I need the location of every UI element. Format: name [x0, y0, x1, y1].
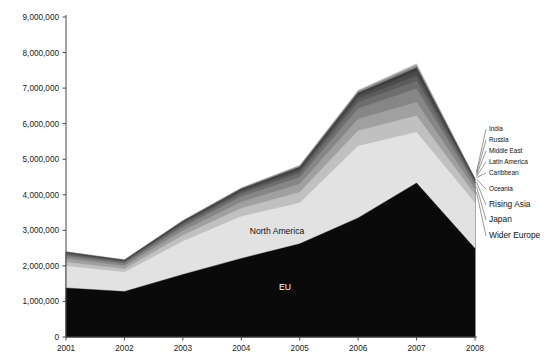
callout-label-rising-asia: Rising Asia — [489, 199, 531, 209]
y-tick-label: 1,000,000 — [23, 297, 60, 306]
y-tick-label: 5,000,000 — [23, 155, 60, 164]
x-tick-label: 2006 — [349, 344, 368, 353]
x-tick-labels: 20012002200320042005200620072008 — [57, 344, 485, 353]
callout-label-india: India — [489, 125, 503, 132]
callout-labels: IndiaRussiaMiddle EastLatin AmericaCarib… — [489, 125, 541, 240]
chart-canvas: 9,000,0008,000,0007,000,0006,000,0005,00… — [0, 0, 549, 364]
callout-label-wider-europe: Wider Europe — [489, 230, 541, 240]
x-tick-label: 2004 — [232, 344, 251, 353]
callout-label-oceania: Oceania — [489, 185, 513, 192]
x-tick-label: 2001 — [57, 344, 76, 353]
y-tick-label: 0 — [54, 333, 59, 342]
callout-leader-line — [477, 173, 487, 178]
y-tick-label: 7,000,000 — [23, 84, 60, 93]
x-tick-label: 2003 — [174, 344, 193, 353]
y-tick-label: 3,000,000 — [23, 226, 60, 235]
x-tick-label: 2005 — [291, 344, 310, 353]
callout-label-japan: Japan — [489, 214, 512, 224]
y-tick-label: 2,000,000 — [23, 262, 60, 271]
y-tick-labels: 9,000,0008,000,0007,000,0006,000,0005,00… — [23, 13, 60, 342]
callout-leader-line — [477, 179, 487, 189]
callout-leader-lines — [477, 129, 487, 236]
callout-label-latin-america: Latin America — [489, 158, 528, 165]
x-tick-label: 2002 — [115, 344, 134, 353]
x-tick-label: 2008 — [466, 344, 485, 353]
callout-label-middle-east: Middle East — [489, 147, 523, 154]
callout-label-caribbean: Caribbean — [489, 169, 519, 176]
callout-label-russia: Russia — [489, 136, 509, 143]
callout-leader-line — [477, 182, 487, 205]
callout-leader-line — [477, 151, 487, 175]
area-series-group — [66, 64, 475, 337]
y-tick-label: 4,000,000 — [23, 191, 60, 200]
callout-leader-line — [477, 129, 487, 172]
x-tick-label: 2007 — [407, 344, 426, 353]
y-tick-label: 8,000,000 — [23, 49, 60, 58]
series-label-north-america: North America — [250, 226, 305, 236]
series-label-eu: EU — [279, 282, 291, 292]
y-tick-label: 9,000,000 — [23, 13, 60, 22]
stacked-area-chart: 9,000,0008,000,0007,000,0006,000,0005,00… — [0, 0, 549, 364]
y-tick-label: 6,000,000 — [23, 120, 60, 129]
callout-leader-line — [477, 140, 487, 174]
